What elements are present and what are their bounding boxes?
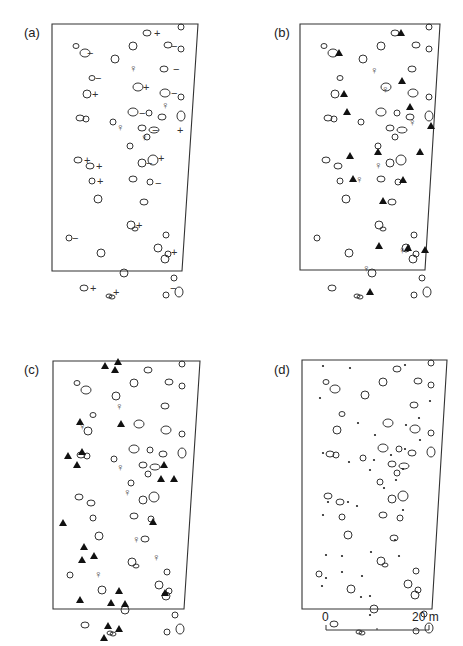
stone-icon — [388, 495, 396, 503]
stone-icon — [112, 392, 120, 400]
stone-icon — [361, 391, 369, 399]
stone-icon — [426, 46, 432, 52]
stone-icon — [419, 275, 425, 281]
stone-icon — [159, 451, 167, 457]
stone-icon — [176, 624, 184, 634]
stone-icon — [359, 55, 367, 63]
triangle-icon — [104, 622, 112, 629]
dot-icon — [321, 585, 323, 587]
stone-icon — [160, 66, 168, 72]
triangle-icon — [160, 461, 168, 468]
stone-icon — [413, 628, 419, 634]
stone-icon — [164, 629, 170, 635]
stone-icon — [145, 471, 151, 477]
stone-icon — [411, 292, 417, 298]
triangle-icon — [416, 148, 424, 155]
stone-icon — [150, 464, 160, 470]
dot-icon — [369, 469, 371, 471]
stone-icon — [146, 110, 152, 116]
dot-icon — [356, 505, 358, 507]
dot-icon — [327, 501, 329, 503]
triangle-icon — [111, 366, 119, 373]
dot-icon — [395, 479, 397, 481]
plus-icon: + — [143, 81, 149, 93]
stone-icon — [90, 515, 96, 521]
stone-icon — [160, 89, 170, 97]
stone-icon — [161, 426, 171, 434]
dot-icon — [325, 554, 327, 556]
stone-icon — [377, 176, 385, 182]
stone-icon — [179, 431, 185, 437]
stone-icon — [334, 163, 342, 169]
stone-icon — [94, 195, 102, 203]
stone-icon — [347, 585, 355, 593]
stone-icon — [73, 44, 79, 49]
dot-icon — [341, 571, 343, 573]
stone-icon — [337, 178, 343, 184]
stone-icon — [90, 413, 96, 418]
stone-icon — [171, 275, 177, 281]
dot-icon — [369, 614, 371, 616]
scale-start-label: 0 — [322, 610, 329, 624]
triangle-icon — [100, 634, 108, 641]
stone-icon — [408, 450, 416, 456]
stone-icon — [130, 379, 138, 387]
stone-icon — [345, 249, 353, 257]
stone-icon — [127, 221, 135, 229]
stone-icon — [411, 591, 419, 599]
dot-icon — [419, 439, 421, 441]
stone-icon — [177, 111, 185, 121]
triangle-icon — [398, 77, 406, 84]
stone-icon — [397, 127, 407, 133]
female-icon: ♀ — [398, 244, 406, 256]
minus-icon: − — [146, 157, 152, 169]
stone-icon — [408, 66, 416, 72]
stone-icon — [331, 90, 339, 98]
stone-icon — [396, 446, 402, 452]
plus-icon: + — [92, 88, 98, 100]
stone-icon — [426, 24, 432, 30]
dot-icon — [404, 364, 406, 366]
minus-icon: − — [155, 177, 161, 189]
stone-icon — [425, 111, 433, 121]
stone-icon — [404, 580, 412, 588]
triangle-icon — [346, 152, 354, 159]
triangle-icon — [115, 587, 123, 594]
triangle-icon — [64, 452, 72, 459]
stone-icon — [410, 425, 420, 433]
triangle-icon — [78, 448, 86, 455]
stone-icon — [74, 381, 80, 386]
dot-icon — [347, 501, 349, 503]
dot-icon — [322, 452, 324, 454]
stone-icon — [67, 572, 73, 578]
minus-icon: − — [95, 72, 101, 84]
dot-icon — [319, 397, 321, 399]
female-icon: ♀ — [370, 64, 378, 76]
stone-icon — [360, 455, 366, 461]
stone-icon — [358, 119, 364, 125]
triangle-icon — [157, 475, 165, 482]
stone-icon — [410, 402, 418, 408]
panel-b: (b) ♀♀♀♀♀♀♀ — [274, 24, 440, 299]
female-icon: ♀ — [129, 62, 137, 74]
stone-icon — [426, 94, 432, 100]
stone-icon — [376, 108, 386, 116]
dot-icon — [418, 417, 420, 419]
stone-icon — [139, 496, 147, 504]
minus-icon: − — [152, 124, 158, 136]
plus-icon: + — [90, 282, 96, 294]
stone-icon — [138, 159, 146, 167]
minus-icon: − — [139, 107, 145, 119]
marks-layer-a: +−−♀−−++−♀−♀−+++−+♀+−−++++− — [72, 27, 183, 298]
stone-icon — [336, 499, 344, 505]
dot-icon — [398, 555, 400, 557]
minus-icon: − — [173, 63, 179, 75]
panel-c: (c) ♀♀♀♀♀♀♀ — [24, 358, 200, 641]
female-icon: ♀ — [374, 159, 382, 171]
triangle-icon — [374, 148, 382, 155]
stone-icon — [388, 461, 396, 467]
stone-icon — [178, 448, 186, 458]
stone-icon — [375, 221, 383, 229]
stone-icon — [163, 292, 169, 298]
stone-icon — [339, 412, 345, 417]
